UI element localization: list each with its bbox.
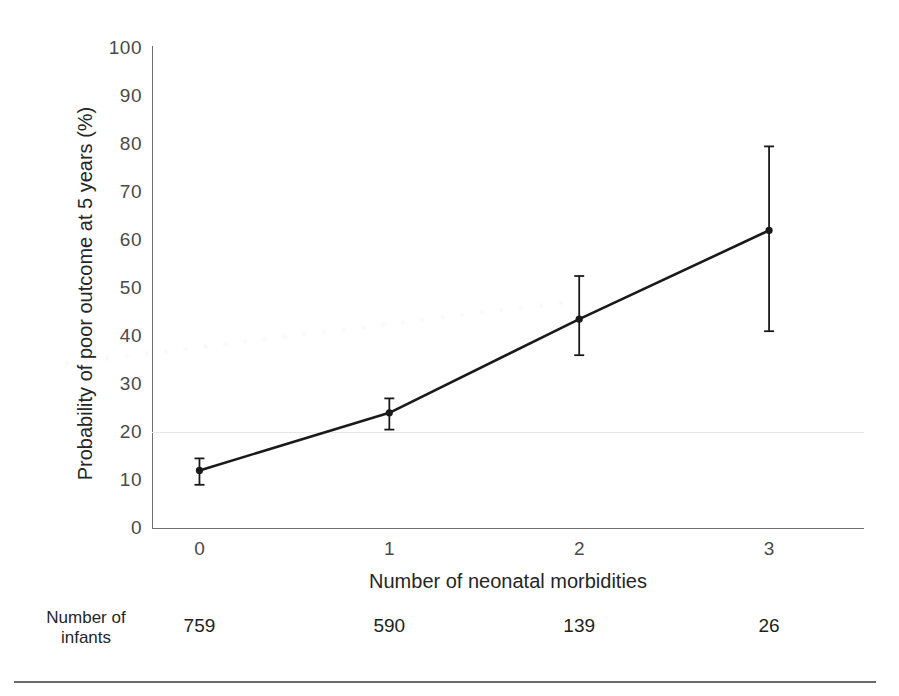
figure-container: · · · · · · · · · · · · · · · · · · · · … bbox=[0, 0, 899, 696]
data-point-0 bbox=[196, 467, 203, 474]
count-value-2: 139 bbox=[563, 615, 595, 637]
data-point-1 bbox=[386, 409, 393, 416]
count-value-0: 759 bbox=[184, 615, 216, 637]
data-point-3 bbox=[765, 227, 772, 234]
count-value-1: 590 bbox=[373, 615, 405, 637]
series-line bbox=[199, 230, 769, 470]
bottom-divider bbox=[14, 681, 876, 683]
count-value-3: 26 bbox=[758, 615, 779, 637]
data-series-layer bbox=[0, 0, 899, 696]
counts-row-values: 75959013926 bbox=[0, 615, 899, 645]
data-point-2 bbox=[576, 316, 583, 323]
